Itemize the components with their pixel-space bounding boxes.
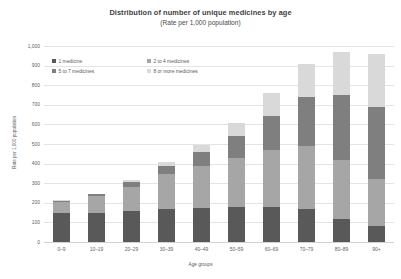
- bar-stack[interactable]: [193, 145, 210, 242]
- bar-segment[interactable]: [333, 52, 350, 96]
- y-axis-tick-label: 400: [8, 161, 40, 166]
- bar-segment[interactable]: [368, 179, 385, 226]
- x-axis-tick-label: 40–49: [184, 247, 219, 253]
- bar-segment[interactable]: [193, 166, 210, 208]
- bar-segment[interactable]: [53, 213, 70, 242]
- bar-stack[interactable]: [333, 52, 350, 242]
- bar-segment[interactable]: [228, 123, 245, 135]
- chart-container: Distribution of number of unique medicin…: [0, 0, 401, 279]
- chart-subtitle: (Rate per 1,000 population): [0, 18, 401, 28]
- y-axis-tick-label: 0: [8, 240, 40, 245]
- x-axis-tick-label: 10–19: [79, 247, 114, 253]
- y-axis-tick-label: 500: [8, 142, 40, 147]
- y-axis-tick-label: 300: [8, 181, 40, 186]
- bar-segment[interactable]: [158, 209, 175, 242]
- x-axis-tick-label: 60–69: [254, 247, 289, 253]
- y-axis-tick-label: 900: [8, 63, 40, 68]
- x-axis-tick-label: 70–79: [289, 247, 324, 253]
- y-axis-tick-label: 700: [8, 102, 40, 107]
- bar-stack[interactable]: [368, 54, 385, 242]
- x-axis-tick-label: 90+: [359, 247, 394, 253]
- legend-label: 8 or more medicines: [154, 69, 198, 74]
- bar-stack[interactable]: [228, 123, 245, 242]
- bar-stack[interactable]: [298, 64, 315, 242]
- x-axis-tick-label: 0–9: [44, 247, 79, 253]
- bar-segment[interactable]: [263, 150, 280, 207]
- y-axis-tick-label: 600: [8, 122, 40, 127]
- gridline: [44, 242, 394, 243]
- chart-title: Distribution of number of unique medicin…: [0, 8, 401, 18]
- bar-stack[interactable]: [88, 194, 105, 242]
- bar-segment[interactable]: [158, 174, 175, 209]
- legend-swatch-icon: [147, 59, 151, 63]
- bar-segment[interactable]: [263, 207, 280, 242]
- chart-legend: 1 medicine2 to 4 medicines5 to 7 medicin…: [52, 56, 242, 76]
- legend-item[interactable]: 8 or more medicines: [147, 69, 242, 74]
- legend-swatch-icon: [52, 69, 56, 73]
- x-axis-tick-label: 80–89: [324, 247, 359, 253]
- bar-stack[interactable]: [263, 93, 280, 242]
- x-axis-title: Age groups: [0, 262, 401, 267]
- x-axis-tick-label: 30–39: [149, 247, 184, 253]
- bar-segment[interactable]: [298, 64, 315, 97]
- legend-item[interactable]: 2 to 4 medicines: [147, 59, 242, 64]
- bar-segment[interactable]: [333, 219, 350, 242]
- bar-segment[interactable]: [368, 54, 385, 107]
- bar-segment[interactable]: [298, 146, 315, 209]
- bar-segment[interactable]: [123, 187, 140, 212]
- bar-stack[interactable]: [53, 200, 70, 242]
- bar-segment[interactable]: [193, 145, 210, 152]
- x-axis-tick-label: 20–29: [114, 247, 149, 253]
- bar-stack[interactable]: [123, 180, 140, 242]
- bar-segment[interactable]: [298, 97, 315, 146]
- bar-segment[interactable]: [368, 107, 385, 180]
- legend-label: 1 medicine: [59, 59, 83, 64]
- bar-stack[interactable]: [158, 162, 175, 242]
- legend-item[interactable]: 5 to 7 medicines: [52, 69, 147, 74]
- bar-segment[interactable]: [88, 213, 105, 242]
- bar-segment[interactable]: [193, 152, 210, 165]
- y-axis-tick-label: 200: [8, 200, 40, 205]
- legend-swatch-icon: [52, 59, 56, 63]
- legend-label: 5 to 7 medicines: [59, 69, 95, 74]
- bar-segment[interactable]: [193, 208, 210, 242]
- bar-segment[interactable]: [88, 196, 105, 213]
- bar-segment[interactable]: [228, 207, 245, 242]
- y-axis-tick-label: 1,000: [8, 44, 40, 49]
- bar-segment[interactable]: [298, 209, 315, 242]
- legend-swatch-icon: [147, 69, 151, 73]
- bar-segment[interactable]: [333, 160, 350, 219]
- y-axis-tick-label: 800: [8, 83, 40, 88]
- bar-segment[interactable]: [53, 202, 70, 213]
- y-axis-tick-label: 100: [8, 220, 40, 225]
- bar-segment[interactable]: [333, 95, 350, 160]
- bar-segment[interactable]: [158, 166, 175, 174]
- bar-segment[interactable]: [228, 158, 245, 207]
- bar-segment[interactable]: [228, 136, 245, 158]
- legend-item[interactable]: 1 medicine: [52, 59, 147, 64]
- legend-label: 2 to 4 medicines: [154, 59, 190, 64]
- x-axis-tick-label: 50–59: [219, 247, 254, 253]
- chart-title-block: Distribution of number of unique medicin…: [0, 8, 401, 28]
- bar-segment[interactable]: [263, 93, 280, 116]
- bar-segment[interactable]: [123, 211, 140, 242]
- bar-segment[interactable]: [263, 116, 280, 150]
- bar-segment[interactable]: [368, 226, 385, 242]
